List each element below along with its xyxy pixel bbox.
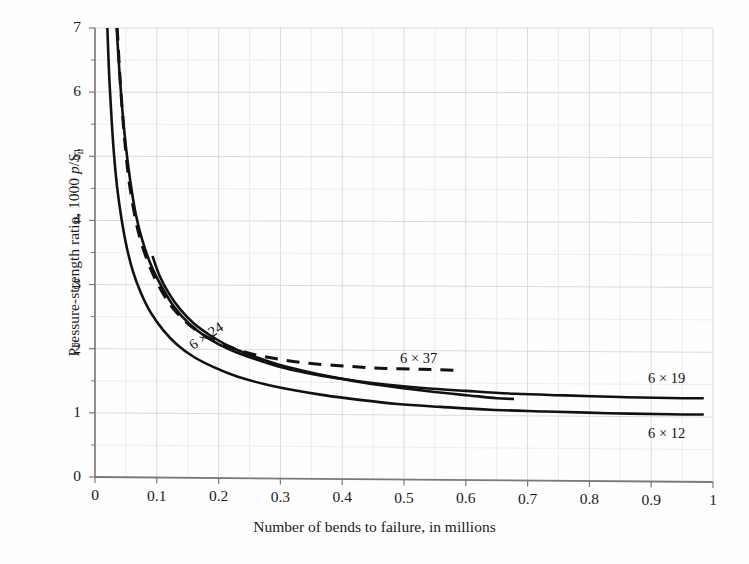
- x-tick-label: 1: [683, 491, 743, 509]
- x-tick-label: 0.6: [436, 489, 496, 507]
- x-tick-label: 0.2: [189, 487, 249, 505]
- y-axis-title-subscript: u: [73, 149, 85, 155]
- curve-label-1: 6 × 37: [400, 350, 437, 367]
- x-axis-title: Number of bends to failure, in millions: [0, 518, 749, 536]
- y-axis-title: Pressure-strength ratio, 1000 p/Su: [65, 149, 84, 357]
- x-tick-label: 0.8: [559, 490, 619, 508]
- y-axis-title-wrapper: Pressure-strength ratio, 1000 p/Su: [65, 23, 84, 483]
- x-tick-label: 0.4: [312, 488, 372, 506]
- x-tick-label: 0: [65, 486, 125, 504]
- chart-figure: 00.10.20.30.40.50.60.70.80.91 01234567 6…: [0, 0, 749, 564]
- y-axis-title-s: S: [65, 154, 82, 162]
- x-tick-label: 0.5: [374, 489, 434, 507]
- x-tick-label: 0.3: [250, 488, 310, 506]
- x-tick-label: 0.7: [498, 490, 558, 508]
- curve-label-2: 6 × 19: [648, 370, 685, 387]
- plot-canvas: [0, 0, 749, 564]
- x-tick-label: 0.1: [127, 487, 187, 505]
- axis-ticks: [89, 28, 713, 488]
- curve-label-3: 6 × 12: [648, 425, 685, 442]
- x-tick-label: 0.9: [621, 491, 681, 509]
- curve-series-0: [117, 28, 453, 370]
- y-axis-title-p: p: [65, 166, 82, 174]
- y-axis-title-slash: /: [65, 162, 82, 166]
- y-axis-title-prefix: Pressure-strength ratio, 1000: [65, 174, 82, 357]
